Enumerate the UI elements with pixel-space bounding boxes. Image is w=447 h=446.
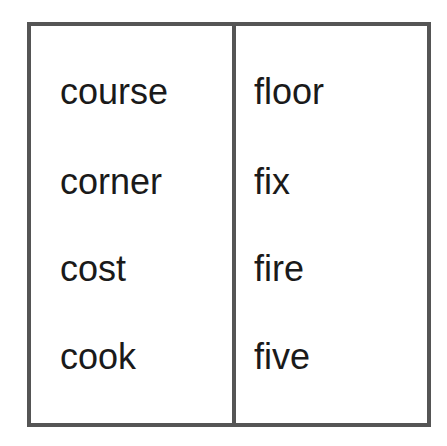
word-cell: corner <box>60 164 162 200</box>
word-column-right: floor fix fire five <box>236 26 427 423</box>
word-cell: five <box>254 339 310 375</box>
word-cell: fire <box>254 251 304 287</box>
word-cell: fix <box>254 164 290 200</box>
word-table: course corner cost cook floor fix fire f… <box>27 22 431 427</box>
word-cell: cost <box>60 251 126 287</box>
word-column-left: course corner cost cook <box>31 26 236 423</box>
word-cell: cook <box>60 339 136 375</box>
word-cell: floor <box>254 74 324 110</box>
word-cell: course <box>60 74 168 110</box>
